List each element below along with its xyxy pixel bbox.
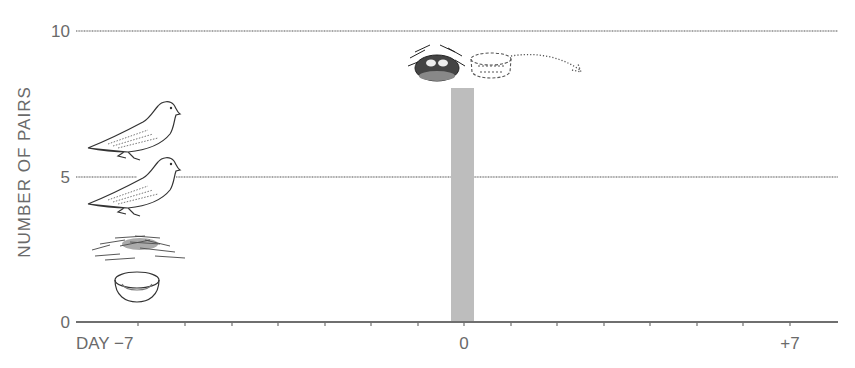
bar-day-0 xyxy=(451,88,474,322)
nest-with-eggs-icon xyxy=(408,45,465,81)
dove-icon xyxy=(88,102,180,160)
y-axis-title: NUMBER OF PAIRS xyxy=(15,86,34,257)
x-label-day-0: 0 xyxy=(459,334,468,353)
x-label-day-plus-7: +7 xyxy=(780,334,799,353)
y-tick-0: 0 xyxy=(61,313,70,332)
y-tick-5: 5 xyxy=(61,168,70,187)
dotted-arrow-icon xyxy=(511,55,581,72)
dove-icon xyxy=(88,158,180,216)
nesting-straw-icon xyxy=(92,236,185,260)
y-tick-10: 10 xyxy=(51,22,70,41)
x-label-day-minus-7: DAY −7 xyxy=(76,334,134,353)
removed-nest-icon xyxy=(471,53,511,78)
empty-nest-bowl-icon xyxy=(115,272,159,302)
chart: NUMBER OF PAIRS 10 5 0 DAY −7 0 +7 xyxy=(0,0,855,368)
